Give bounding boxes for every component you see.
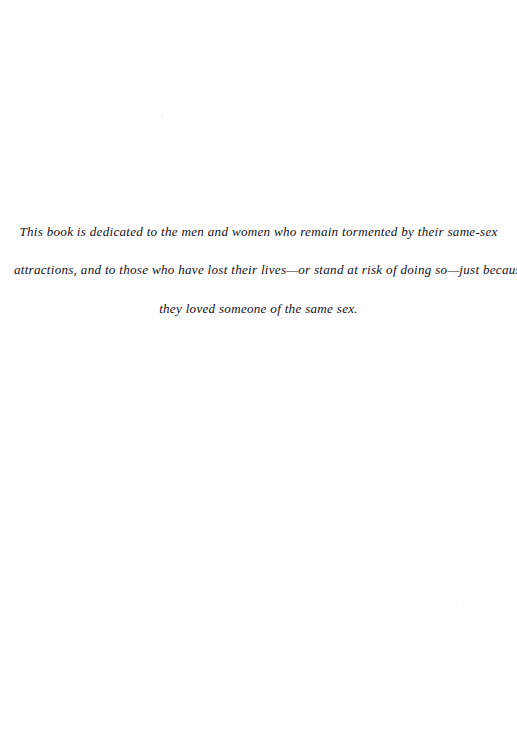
dedication-line-2: attractions, and to those who have lost … <box>14 251 503 289</box>
book-page: This book is dedicated to the men and wo… <box>0 0 517 748</box>
scan-artifact-speckle <box>361 678 363 681</box>
dedication-line-3: they loved someone of the same sex. <box>14 290 503 328</box>
scan-artifact-speckle <box>108 482 111 485</box>
dedication-text-block: This book is dedicated to the men and wo… <box>0 213 517 328</box>
scan-artifact-speckle <box>455 601 458 605</box>
dedication-line-1: This book is dedicated to the men and wo… <box>14 213 503 251</box>
scan-artifact-speckle <box>161 114 164 119</box>
